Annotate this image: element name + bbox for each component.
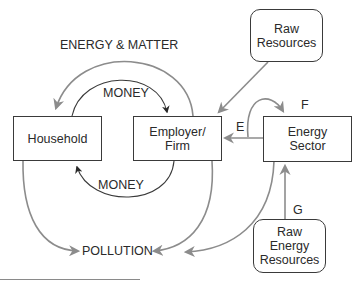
- employer-label-line1: Employer/: [149, 125, 205, 139]
- g-label: G: [293, 203, 303, 217]
- economy-flow-diagram: Household Employer/ Firm Energy Sector R…: [0, 0, 357, 283]
- pollution-label: POLLUTION: [82, 244, 153, 258]
- raw-resources-box: Raw Resources: [250, 9, 323, 62]
- raw-energy-label-line1: Raw: [277, 225, 302, 239]
- energy-sector-label-line1: Energy: [288, 125, 328, 139]
- household-box: Household: [13, 116, 102, 161]
- money-top-label: MONEY: [103, 86, 149, 100]
- raw-resources-label-line1: Raw: [274, 22, 299, 36]
- e-label: E: [236, 120, 244, 134]
- household-label: Household: [28, 132, 88, 146]
- household-pollution-arrow: [23, 160, 78, 251]
- raw-resources-arrow: [219, 62, 268, 112]
- energy-sector-label-line2: Sector: [289, 139, 325, 153]
- raw-resources-label-line2: Resources: [257, 36, 317, 50]
- energy-matter-label: ENERGY & MATTER: [60, 38, 178, 52]
- raw-energy-label-line3: Resources: [260, 253, 320, 267]
- raw-energy-resources-box: Raw Energy Resources: [253, 219, 326, 273]
- money-bottom-label: MONEY: [98, 178, 144, 192]
- raw-energy-label-line2: Energy: [270, 239, 310, 253]
- footnote-divider: [0, 279, 140, 280]
- employer-pollution-arrow: [154, 161, 212, 251]
- f-label: F: [301, 98, 309, 112]
- energy-sector-box: Energy Sector: [263, 116, 352, 162]
- employer-label-line2: Firm: [165, 139, 190, 153]
- employer-firm-box: Employer/ Firm: [133, 116, 222, 161]
